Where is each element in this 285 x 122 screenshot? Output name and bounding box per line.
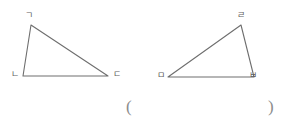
left-triangle-shape — [23, 25, 108, 76]
right-triangle-vertex-label-bottom-left: ㅁ — [157, 71, 165, 80]
right-triangle-vertex-label-apex: ㄹ — [237, 11, 245, 20]
answer-open-paren: ( — [126, 98, 132, 115]
left-triangle-vertex-label-apex: ㄱ — [25, 11, 33, 20]
figure-canvas: ㄱ ㄴ ㄷ ㄹ ㅁ ㅂ ( ) — [0, 0, 285, 122]
left-triangle-vertex-label-bottom-right: ㄷ — [113, 70, 121, 79]
right-triangle-vertex-label-bottom-right: ㅂ — [249, 71, 257, 80]
answer-close-paren: ) — [268, 98, 274, 115]
left-triangle-vertex-label-bottom-left: ㄴ — [11, 70, 19, 79]
right-triangle-shape — [168, 25, 254, 77]
